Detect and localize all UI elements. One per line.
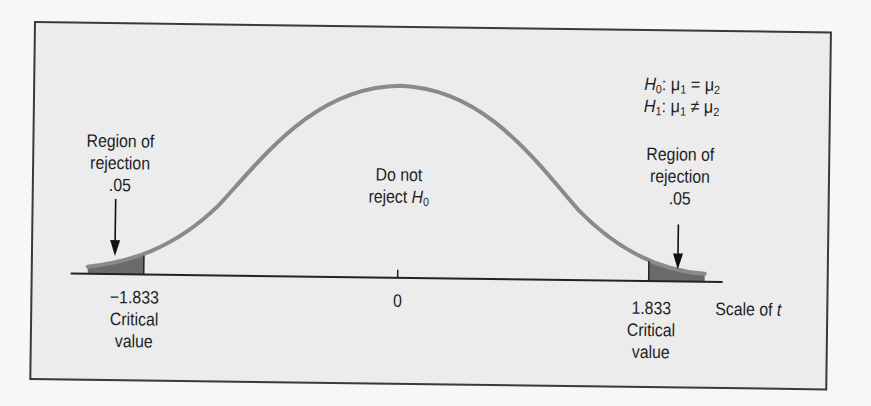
center-region-line2: reject H0	[359, 185, 438, 208]
right-region-line2: rejection	[639, 165, 720, 188]
h1-mu2-subscript: 2	[713, 105, 719, 119]
left-critical-text2: value	[98, 330, 169, 353]
right-critical-number: 1.833	[620, 297, 682, 320]
right-arrow-icon	[673, 224, 684, 269]
right-region-alpha: .05	[639, 187, 720, 210]
left-critical-text1: Critical	[99, 308, 170, 331]
right-critical-text2: value	[620, 341, 682, 364]
left-region-line1: Region of	[80, 130, 161, 153]
center-region-h-subscript: 0	[423, 195, 429, 209]
h1-relation: ≠ μ	[686, 97, 713, 117]
center-region-h-symbol: H	[412, 187, 424, 207]
h0-symbol: H	[644, 74, 656, 94]
center-region-label: Do not reject H0	[359, 163, 439, 208]
left-region-line2: rejection	[80, 152, 161, 175]
null-hypothesis: H0: μ1 = μ2	[644, 73, 720, 96]
left-critical-number: −1.833	[99, 286, 170, 309]
axis-scale-label: Scale of t	[704, 298, 792, 321]
right-region-label: Region of rejection .05	[639, 143, 721, 210]
left-region-alpha: .05	[79, 174, 160, 197]
left-arrow-icon	[110, 199, 121, 256]
right-critical-text1: Critical	[620, 319, 682, 342]
h0-mu1: : μ	[662, 74, 681, 94]
scale-prefix: Scale of	[715, 299, 777, 320]
right-region-line1: Region of	[640, 143, 721, 166]
right-critical-value-label: 1.833 Critical value	[620, 297, 682, 364]
figure-frame: H0: μ1 = μ2 H1: μ1 ≠ μ2 Region of reject…	[29, 21, 832, 390]
center-region-prefix: reject	[368, 186, 411, 207]
h1-symbol: H	[644, 96, 656, 116]
t-axis-line	[71, 274, 723, 283]
center-region-line1: Do not	[359, 163, 438, 186]
alternative-hypothesis: H1: μ1 ≠ μ2	[644, 95, 720, 118]
left-critical-value-label: −1.833 Critical value	[98, 286, 169, 353]
scale-variable: t	[777, 300, 782, 320]
h0-mu2-subscript: 2	[714, 83, 720, 97]
h1-mu1: : μ	[662, 96, 681, 116]
left-region-label: Region of rejection .05	[79, 130, 161, 197]
zero-label: 0	[380, 290, 415, 312]
zero-tick-label: 0	[380, 290, 415, 312]
h0-relation: = μ	[686, 75, 714, 95]
